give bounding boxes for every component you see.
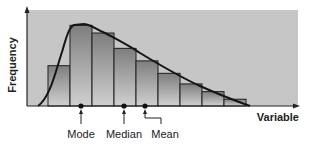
x-axis-label: Variable <box>257 111 299 123</box>
mode-label: Mode <box>67 128 95 140</box>
mode-marker <box>78 103 83 124</box>
y-axis-arrow-icon <box>25 6 30 13</box>
histogram-bar <box>180 84 202 106</box>
histogram-bar <box>202 92 224 106</box>
median-label: Median <box>106 128 142 140</box>
histogram-bar <box>92 33 114 106</box>
y-axis-label-text: Frequency <box>6 37 18 93</box>
y-axis-label: Frequency <box>2 20 22 110</box>
mean-label: Mean <box>151 128 179 140</box>
median-marker <box>121 103 126 124</box>
histogram-bar <box>70 25 92 106</box>
histogram-chart <box>0 0 311 147</box>
histogram-bar <box>158 73 180 106</box>
histogram-bar <box>114 48 136 106</box>
histogram-bar <box>136 61 158 106</box>
